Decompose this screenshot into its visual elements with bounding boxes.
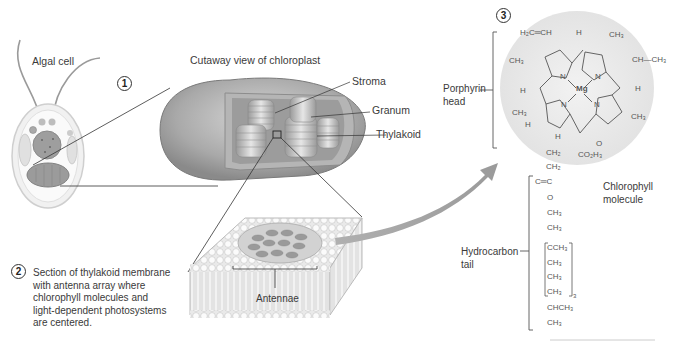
thylakoid-label: Thylakoid: [376, 128, 421, 141]
repeat-subscript: 3: [573, 293, 576, 299]
ethyl-group: CH—CH₃: [632, 55, 666, 64]
label-line: molecule: [603, 194, 653, 207]
tail-group: CH₃: [547, 318, 562, 327]
caption-line: with antenna array where: [33, 280, 170, 293]
label-line: tail: [461, 259, 518, 272]
h-group: H: [635, 84, 641, 93]
oxygen-atom: O: [596, 139, 602, 148]
tail-group: CCH₃: [547, 243, 568, 252]
label-line: Hydrocarbon: [461, 246, 518, 259]
caption-line: are centered.: [33, 317, 170, 330]
nitrogen-atom: N: [560, 72, 566, 81]
tail-group: CH₃: [547, 258, 562, 267]
nitrogen-atom: N: [561, 100, 567, 109]
tail-group: CH₃: [547, 223, 562, 232]
tail-group: CH₃: [547, 208, 562, 217]
h-group: H: [520, 86, 526, 95]
chloroplast-illustration: [160, 78, 365, 180]
h-group: H: [555, 132, 561, 141]
tail-group: CH₃: [547, 287, 562, 296]
step-number-2: 2: [11, 264, 26, 279]
ch3-group: CH₃: [631, 112, 646, 121]
ester-group: CO₂H₃: [578, 150, 602, 159]
antennae-label: Antennae: [256, 292, 299, 305]
label-line: head: [443, 96, 486, 109]
ch3-group: CH₃: [609, 30, 624, 39]
tail-group: C═C: [535, 177, 552, 186]
tail-group: CHCH₃: [547, 303, 573, 312]
vinyl-group: H₂C═CH: [520, 28, 552, 37]
nitrogen-atom: N: [595, 72, 601, 81]
stroma-label: Stroma: [352, 75, 386, 88]
chlorophyll-molecule-label: Chlorophyll molecule: [603, 181, 653, 206]
step-number-1: 1: [117, 76, 132, 91]
label-line: Chlorophyll: [603, 181, 653, 194]
porphyrin-head-label: Porphyrin head: [443, 83, 486, 108]
caption-line: Section of thylakoid membrane: [33, 267, 170, 280]
ch2-group: CH₂: [546, 148, 561, 157]
nitrogen-atom: N: [594, 100, 600, 109]
magnesium-atom: Mg: [576, 84, 588, 93]
chloroplast-title: Cutaway view of chloroplast: [190, 54, 320, 67]
h-group: H: [525, 120, 531, 129]
ch3-group: CH₃: [512, 108, 527, 117]
ch2-group: CH₂: [546, 162, 561, 171]
algal-cell-label: Algal cell: [32, 55, 74, 68]
section-caption: Section of thylakoid membrane with anten…: [33, 267, 170, 330]
h-group: H: [576, 28, 582, 37]
tail-group: CH₃: [547, 272, 562, 281]
caption-line: chlorophyll molecules and: [33, 292, 170, 305]
hydrocarbon-tail-label: Hydrocarbon tail: [461, 246, 518, 271]
ch3-group: CH₃: [509, 56, 524, 65]
caption-line: light-dependent photosystems: [33, 305, 170, 318]
step-number-3: 3: [496, 8, 511, 23]
label-line: Porphyrin: [443, 83, 486, 96]
granum-label: Granum: [372, 104, 410, 117]
tail-group: O: [547, 193, 553, 202]
